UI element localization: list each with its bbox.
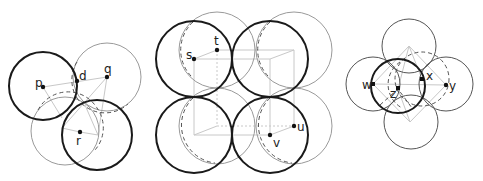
label-v: v — [273, 136, 280, 150]
point-z — [396, 86, 400, 90]
label-p: p — [35, 76, 43, 90]
sphere-bottom — [384, 95, 438, 149]
dashed-arc — [258, 98, 292, 163]
label-y: y — [449, 79, 456, 93]
label-w: w — [362, 78, 372, 92]
dashed-arc — [181, 98, 215, 163]
label-s: s — [186, 48, 192, 62]
guide-line-pq — [43, 77, 107, 87]
point-y — [444, 83, 448, 87]
point-u — [292, 124, 296, 128]
cube-edge — [194, 126, 217, 135]
figure-left: p d q r — [9, 43, 141, 170]
label-q: q — [104, 62, 112, 76]
figure-middle: s t u v — [156, 12, 332, 173]
cube-edge — [270, 50, 294, 59]
sphere-lower-left — [31, 97, 99, 165]
point-t — [215, 48, 219, 52]
figure-right: w z x y — [346, 19, 473, 149]
label-x: x — [426, 69, 433, 83]
label-u: u — [297, 120, 305, 134]
diagram-canvas: p d q r — [0, 0, 483, 181]
label-r: r — [76, 134, 81, 148]
cube-edge — [270, 126, 294, 135]
guide-line — [398, 89, 410, 122]
point-v — [268, 133, 272, 137]
label-d: d — [79, 69, 87, 83]
label-z: z — [390, 87, 396, 101]
guide-line — [373, 46, 409, 84]
guide-line — [373, 84, 446, 85]
point-s — [192, 57, 196, 61]
guide-line — [62, 128, 80, 132]
cube-edge — [194, 50, 217, 59]
point-x — [420, 77, 424, 81]
label-t: t — [214, 34, 219, 48]
guide-line — [80, 132, 98, 135]
